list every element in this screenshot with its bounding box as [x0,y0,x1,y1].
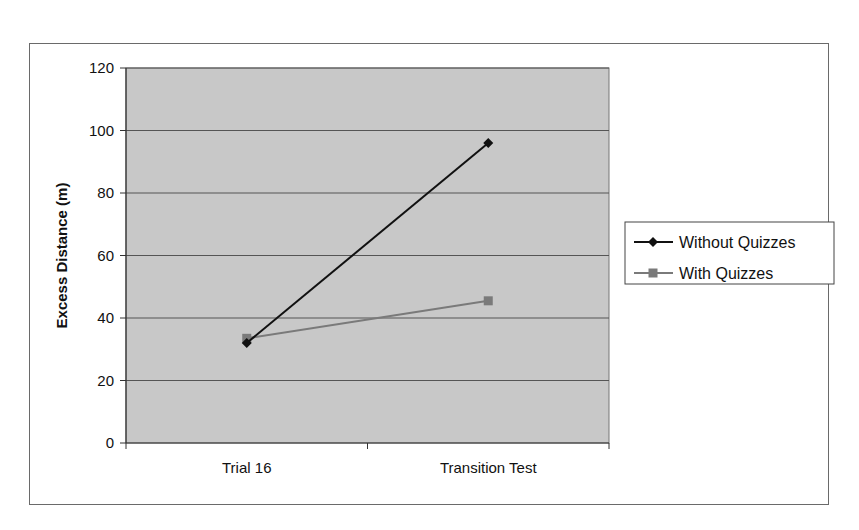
y-tick-label: 60 [97,247,114,264]
y-tick-label: 0 [106,434,114,451]
legend-square-icon [649,269,658,278]
x-tick-label: Transition Test [440,459,538,476]
legend-label: Without Quizzes [679,234,795,251]
y-tick-label: 80 [97,184,114,201]
y-tick-label: 100 [89,122,114,139]
legend: Without QuizzesWith Quizzes [625,222,834,284]
x-tick-label: Trial 16 [222,459,271,476]
legend-label: With Quizzes [679,265,773,282]
y-axis-label: Excess Distance (m) [53,183,70,329]
square-marker-icon [484,296,493,305]
y-tick-label: 20 [97,372,114,389]
y-tick-label: 40 [97,309,114,326]
line-chart: 020406080100120Trial 16Transition TestEx… [0,0,859,530]
y-tick-label: 120 [89,59,114,76]
